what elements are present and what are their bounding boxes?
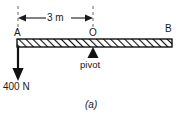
dimension-arrowhead-left bbox=[18, 14, 26, 21]
pivot-support bbox=[88, 47, 99, 58]
beam-bar bbox=[17, 39, 172, 47]
point-label-a: A bbox=[14, 28, 21, 38]
beam-diagram-figure: 3 m A O B pivot 400 N (a) bbox=[0, 0, 184, 116]
figure-caption: (a) bbox=[85, 100, 97, 110]
point-label-b: B bbox=[165, 24, 172, 34]
pivot-label: pivot bbox=[80, 60, 100, 70]
force-label-400n: 400 N bbox=[3, 82, 30, 92]
point-label-o: O bbox=[89, 28, 97, 38]
beam-body bbox=[17, 39, 172, 47]
dimension-arrowhead-right bbox=[85, 14, 93, 21]
dimension-label-3m: 3 m bbox=[47, 13, 64, 23]
force-arrow-head bbox=[12, 68, 23, 81]
pivot-triangle-icon bbox=[88, 47, 99, 58]
force-arrow-400n bbox=[12, 47, 23, 81]
